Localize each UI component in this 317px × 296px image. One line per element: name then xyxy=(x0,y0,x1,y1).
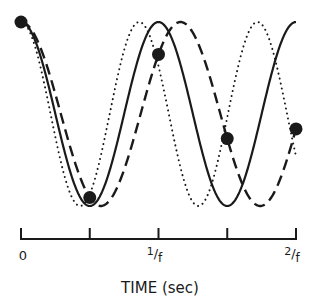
x-tick-label: 1/f xyxy=(147,245,163,265)
tick-labels: 01/f2/f xyxy=(19,245,301,265)
sample-point xyxy=(15,16,28,29)
sample-points-group xyxy=(15,16,303,204)
chart: 01/f2/f TIME (sec) xyxy=(0,0,317,296)
x-tick-label: 2/f xyxy=(284,245,300,265)
sample-point xyxy=(221,132,234,145)
time-axis xyxy=(21,228,296,240)
sample-point xyxy=(152,48,165,61)
sample-point xyxy=(83,191,96,204)
x-tick-label: 0 xyxy=(19,248,27,263)
x-axis-label: TIME (sec) xyxy=(120,279,199,296)
sample-point xyxy=(290,122,303,135)
